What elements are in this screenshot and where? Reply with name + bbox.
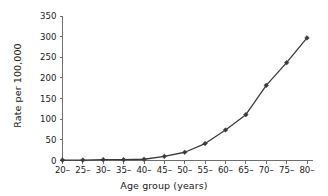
x-tick-label: 35– <box>116 165 131 175</box>
data-point-marker <box>121 157 126 162</box>
y-tick-label: 250 <box>40 52 56 62</box>
x-tick-label: 80– <box>299 165 314 175</box>
y-tick-label: 150 <box>40 94 56 104</box>
x-tick-label: 65– <box>238 165 253 175</box>
x-tick-label: 30– <box>96 165 111 175</box>
x-tick-label: 50– <box>177 165 192 175</box>
data-series-line <box>63 38 308 160</box>
x-tick-label: 45– <box>157 165 172 175</box>
data-point-marker <box>162 154 167 159</box>
x-axis-title: Age group (years) <box>0 174 328 193</box>
y-tick-label: 200 <box>40 73 56 83</box>
x-tick-label: 55– <box>198 165 213 175</box>
data-point-marker <box>182 150 187 155</box>
y-tick-label: 50 <box>46 135 57 145</box>
x-tick-label: 25– <box>75 165 90 175</box>
data-point-marker <box>60 158 65 163</box>
chart-figure: Rate per 100,000 050100150200250300350 2… <box>0 0 328 196</box>
x-tick-label: 20– <box>55 165 70 175</box>
x-axis-ticks: 20–25–30–35–40–45–50–55–60–65–70–75–80– <box>55 161 315 175</box>
y-tick-label: 350 <box>40 11 56 21</box>
y-tick-label: 300 <box>40 32 56 42</box>
plot-area: 050100150200250300350 20–25–30–35–40–45–… <box>0 0 328 196</box>
x-tick-label: 75– <box>279 165 294 175</box>
x-tick-label: 70– <box>259 165 274 175</box>
data-point-marker <box>101 157 106 162</box>
x-axis-title-text: Age group (years) <box>120 180 207 191</box>
data-point-marker <box>81 158 86 163</box>
data-series-markers <box>60 36 309 163</box>
y-axis-ticks: 050100150200250300350 <box>40 11 62 166</box>
x-tick-label: 40– <box>136 165 151 175</box>
x-tick-label: 60– <box>218 165 233 175</box>
y-tick-label: 100 <box>40 114 56 124</box>
